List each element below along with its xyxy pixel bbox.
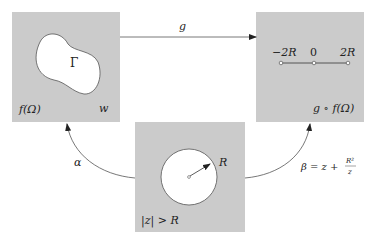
center-point <box>188 176 191 179</box>
point-neg-2r <box>279 61 283 65</box>
panel-g-f-omega: −2R 0 2R g ∘ f(Ω) <box>256 12 364 122</box>
arrow-alpha: α <box>67 124 135 178</box>
point-zero <box>312 61 316 65</box>
f-omega-label: f(Ω) <box>18 103 41 116</box>
diagram-canvas: Γ f(Ω) w −2R 0 2R g ∘ f(Ω) R |z| > R g α… <box>0 0 369 239</box>
radius-label: R <box>218 156 227 169</box>
w-label: w <box>99 102 109 115</box>
panel-exterior-disk: R |z| > R <box>135 122 245 232</box>
tick-zero: 0 <box>310 46 317 59</box>
beta-frac-den: z <box>347 168 352 176</box>
beta-frac-num: R² <box>345 157 354 165</box>
arrow-g: g <box>120 20 256 37</box>
g-f-omega-label: g ∘ f(Ω) <box>313 102 354 115</box>
tick-neg-2r: −2R <box>272 46 297 59</box>
alpha-label: α <box>74 156 82 169</box>
arrow-beta: β = z + R² z <box>245 124 356 178</box>
tick-2r: 2R <box>339 46 355 59</box>
point-2r <box>346 61 350 65</box>
panel-f-omega: Γ f(Ω) w <box>12 12 120 122</box>
exterior-label: |z| > R <box>141 214 179 228</box>
beta-label: β = z + <box>300 161 338 172</box>
g-label: g <box>179 20 186 33</box>
gamma-label: Γ <box>70 56 78 70</box>
